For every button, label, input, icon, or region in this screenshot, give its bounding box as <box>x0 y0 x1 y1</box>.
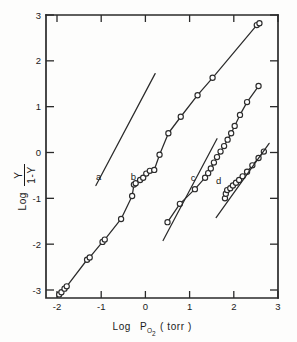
curve-label-d: d <box>216 175 221 186</box>
data-point-c-10 <box>225 137 230 142</box>
y-axis-title-numerator: Y <box>13 171 24 178</box>
data-point-b-5 <box>87 255 92 260</box>
series-c <box>165 83 261 224</box>
data-point-c-0 <box>165 220 170 225</box>
x-tick-label-3: 1 <box>187 301 192 312</box>
series-a <box>96 74 155 186</box>
y-tick-label-3: 0 <box>36 147 41 158</box>
x-tick-label-2: 0 <box>143 301 148 312</box>
curve-path-b <box>59 23 259 294</box>
y-tick-label-2: 1 <box>36 101 41 112</box>
data-point-c-13 <box>237 112 242 117</box>
data-point-b-21 <box>210 75 215 80</box>
data-point-c-5 <box>208 166 213 171</box>
data-point-b-8 <box>118 216 123 221</box>
data-point-c-15 <box>256 83 261 88</box>
data-point-b-18 <box>166 131 171 136</box>
y-axis-title-denominator: 1-Y <box>26 166 37 183</box>
x-tick-label-5: 3 <box>275 301 280 312</box>
data-point-b-23 <box>257 21 262 26</box>
x-tick-label-1: -1 <box>97 301 105 312</box>
reference-line-c-reference-line <box>163 139 217 241</box>
axis-tick-labels: -2-101233210-1-2-3 <box>33 10 281 313</box>
plot-canvas: -2-101233210-1-2-3 abcd Log P O 2 ( torr… <box>0 0 297 342</box>
data-point-b-16 <box>152 167 157 172</box>
data-series-group <box>57 21 270 298</box>
series-c-reference-line <box>163 139 217 241</box>
curve-label-a: a <box>96 171 102 182</box>
y-tick-label-4: -1 <box>33 193 41 204</box>
figure-container: -2-101233210-1-2-3 abcd Log P O 2 ( torr… <box>0 0 297 342</box>
data-point-c-11 <box>229 131 234 136</box>
data-point-c-14 <box>244 99 249 104</box>
data-point-c-7 <box>214 154 219 159</box>
curve-label-b: b <box>131 171 136 182</box>
y-tick-label-0: 3 <box>36 10 41 21</box>
curve-label-c: c <box>191 172 196 183</box>
data-point-c-6 <box>211 160 216 165</box>
y-tick-label-5: -2 <box>33 239 41 250</box>
reference-line-d-reference-line <box>216 143 269 217</box>
series-b <box>57 21 262 298</box>
data-point-c-8 <box>218 149 223 154</box>
data-point-c-12 <box>232 123 237 128</box>
data-point-b-7 <box>102 237 107 242</box>
data-point-b-20 <box>195 93 200 98</box>
data-point-c-9 <box>221 143 226 148</box>
y-tick-label-6: -3 <box>33 285 41 296</box>
y-tick-label-1: 2 <box>36 55 41 66</box>
data-point-b-9 <box>130 193 135 198</box>
x-axis-title-subscript-2: 2 <box>152 330 156 337</box>
x-tick-label-0: -2 <box>53 301 61 312</box>
data-point-c-2 <box>192 187 197 192</box>
x-axis-title: Log P O 2 ( torr ) <box>113 321 193 337</box>
y-axis-title-log: Log <box>17 192 28 211</box>
x-axis-title-log: Log <box>113 321 132 332</box>
x-axis-title-units: ( torr ) <box>160 321 192 332</box>
x-tick-label-4: 2 <box>231 301 236 312</box>
data-point-b-17 <box>157 152 162 157</box>
data-point-b-19 <box>178 114 183 119</box>
data-point-b-3 <box>64 284 69 289</box>
series-d-reference-line <box>216 143 269 217</box>
reference-line-a <box>96 74 155 186</box>
